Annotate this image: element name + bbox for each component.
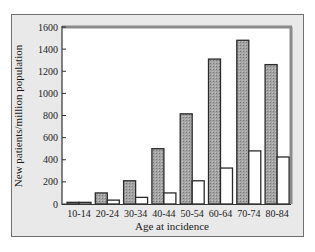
bar-70-74-shaded [237, 40, 249, 204]
bar-10-14-open [79, 202, 91, 204]
y-axis-title: New patients/million population [12, 44, 24, 187]
y-tick-label: 1400 [38, 44, 58, 55]
y-tick-label: 200 [43, 176, 58, 187]
y-tick-label: 1200 [38, 66, 58, 77]
x-tick-label: 50-54 [181, 208, 204, 219]
x-axis-ticks: 10-1420-2430-3440-4450-5460-6470-7480-84 [67, 208, 288, 219]
bar-70-74-open [249, 151, 261, 204]
x-tick-label: 60-64 [209, 208, 232, 219]
bar-30-34-open [136, 197, 148, 204]
x-tick-label: 40-44 [152, 208, 175, 219]
x-tick-label: 30-34 [124, 208, 147, 219]
bar-40-44-open [164, 193, 176, 204]
bar-20-24-open [107, 200, 119, 204]
y-tick-label: 600 [43, 132, 58, 143]
x-tick-label: 20-24 [96, 208, 119, 219]
bar-50-54-open [192, 181, 204, 204]
y-tick-label: 1000 [38, 88, 58, 99]
bar-10-14-shaded [67, 202, 79, 204]
bar-80-84-shaded [265, 65, 277, 204]
bar-40-44-shaded [152, 149, 164, 204]
bar-20-24-shaded [95, 193, 107, 204]
bar-chart: 02004006008001000120014001600 10-1420-24… [0, 0, 315, 252]
bar-60-64-open [221, 168, 233, 204]
bar-80-84-open [277, 157, 289, 204]
bar-60-64-shaded [209, 59, 221, 204]
x-tick-label: 10-14 [67, 208, 90, 219]
y-tick-label: 0 [53, 199, 58, 210]
y-tick-label: 400 [43, 154, 58, 165]
x-tick-label: 70-74 [237, 208, 260, 219]
y-tick-label: 1600 [38, 22, 58, 33]
y-tick-label: 800 [43, 110, 58, 121]
x-axis-title: Age at incidence [135, 220, 209, 232]
x-tick-label: 80-84 [265, 208, 288, 219]
bar-50-54-shaded [180, 114, 192, 204]
bar-30-34-shaded [124, 181, 136, 204]
